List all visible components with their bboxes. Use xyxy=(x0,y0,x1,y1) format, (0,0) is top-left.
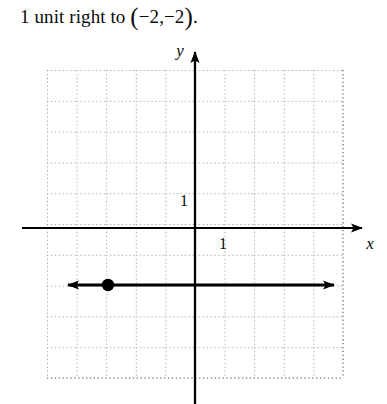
figure-container: 1 unit right to (−2,−2). xyxy=(0,0,387,404)
caption-period: . xyxy=(193,6,198,27)
x-unit-tick-label: 1 xyxy=(219,235,227,252)
caption-close-paren: ) xyxy=(184,3,192,30)
plotted-point xyxy=(102,279,114,291)
caption-lead: 1 unit right to xyxy=(20,6,125,27)
caption-text: 1 unit right to (−2,−2). xyxy=(20,3,360,33)
coordinate-plane: y x 1 1 xyxy=(0,33,387,404)
x-axis-label: x xyxy=(365,234,374,253)
graph-svg: y x 1 1 xyxy=(0,33,387,404)
caption-coordinates: −2,−2 xyxy=(139,6,185,27)
y-unit-tick-label: 1 xyxy=(180,192,188,209)
caption-open-paren: ( xyxy=(130,3,138,30)
y-axis-label: y xyxy=(174,41,184,60)
